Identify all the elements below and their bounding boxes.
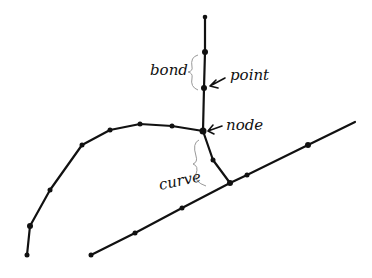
bond-brace (188, 55, 198, 90)
long-chain (91, 122, 355, 255)
connector-curve (203, 131, 230, 183)
node-point (200, 128, 207, 135)
diagram-canvas: bond point node curve (0, 0, 372, 278)
vertical-chain (203, 17, 205, 131)
curve-label: curve (157, 167, 203, 193)
node-label: node (226, 116, 263, 134)
bond-label: bond (150, 61, 188, 79)
points (25, 15, 312, 258)
node-arrow-icon (208, 125, 222, 134)
point-label: point (230, 66, 270, 84)
point-arrow-icon (210, 78, 225, 88)
